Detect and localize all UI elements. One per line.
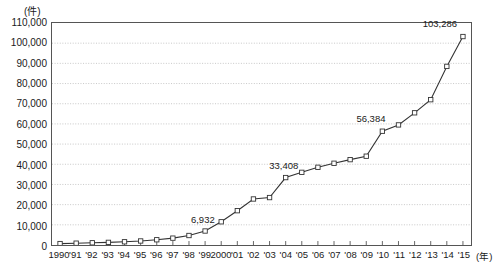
- x-tick-label: '07: [328, 249, 340, 260]
- x-tick-label: '94: [118, 249, 130, 260]
- x-tick-label: '14: [442, 249, 454, 260]
- data-series-line: [52, 23, 471, 245]
- data-point-marker: [74, 241, 78, 245]
- x-tick-label: '97: [166, 249, 178, 260]
- x-tick-label: '93: [101, 249, 113, 260]
- x-tick-label: '13: [425, 249, 437, 260]
- y-tick-label: 70,000: [16, 98, 47, 109]
- data-point-marker: [267, 195, 271, 199]
- y-tick-label: 110,000: [12, 17, 47, 28]
- x-axis-tick-labels: 1990'91'92'93'94'95'96'97'98'992000'01'0…: [51, 249, 472, 267]
- data-point-marker: [155, 238, 159, 242]
- data-point-marker: [348, 157, 352, 161]
- data-point-marker: [203, 229, 207, 233]
- x-tick-label: '95: [134, 249, 146, 260]
- x-tick-label: '04: [280, 249, 292, 260]
- y-tick-label: 90,000: [16, 57, 47, 68]
- data-point-marker: [283, 175, 287, 179]
- y-tick-label: 10,000: [16, 220, 47, 231]
- x-tick-label: '98: [182, 249, 194, 260]
- data-point-marker: [235, 209, 239, 213]
- data-point-marker: [122, 240, 126, 244]
- x-tick-label: '02: [247, 249, 259, 260]
- x-tick-label: '15: [458, 249, 470, 260]
- data-point-marker: [461, 34, 465, 38]
- x-tick-label: '91: [69, 249, 81, 260]
- x-tick-label: '10: [377, 249, 389, 260]
- x-tick-label: 1990: [49, 249, 70, 260]
- x-tick-label: '01: [231, 249, 243, 260]
- x-tick-label: '06: [312, 249, 324, 260]
- y-tick-label: 20,000: [16, 200, 47, 211]
- data-point-marker: [332, 161, 336, 165]
- x-tick-label: '08: [344, 249, 356, 260]
- data-point-marker: [251, 197, 255, 201]
- data-point-marker: [106, 240, 110, 244]
- data-point-label: 6,932: [191, 214, 215, 225]
- x-tick-label: '99: [199, 249, 211, 260]
- chart-container: (件) 110,000100,00090,00080,00070,00060,0…: [0, 0, 502, 278]
- data-point-marker: [316, 165, 320, 169]
- x-tick-label: '03: [263, 249, 275, 260]
- y-tick-label: 40,000: [16, 159, 47, 170]
- plot-area: [51, 22, 472, 246]
- y-tick-label: 60,000: [16, 118, 47, 129]
- data-point-marker: [171, 236, 175, 240]
- y-tick-label: 100,000: [11, 37, 47, 48]
- data-point-marker: [187, 233, 191, 237]
- x-tick-label: '96: [150, 249, 162, 260]
- y-tick-label: 50,000: [16, 139, 47, 150]
- x-tick-label: '12: [409, 249, 421, 260]
- data-point-marker: [90, 241, 94, 245]
- x-tick-label: 2000: [210, 249, 231, 260]
- y-tick-label: 0: [41, 241, 47, 252]
- x-tick-label: '05: [296, 249, 308, 260]
- x-tick-label: '92: [85, 249, 97, 260]
- data-point-marker: [364, 154, 368, 158]
- data-point-marker: [412, 111, 416, 115]
- y-tick-label: 80,000: [16, 78, 47, 89]
- data-point-marker: [429, 98, 433, 102]
- data-point-marker: [396, 123, 400, 127]
- x-axis-unit-label: (年): [476, 249, 492, 263]
- x-tick-label: '09: [361, 249, 373, 260]
- data-point-label: 33,408: [269, 160, 298, 171]
- data-point-label: 103,286: [423, 18, 457, 29]
- data-point-marker: [300, 170, 304, 174]
- data-point-marker: [219, 220, 223, 224]
- x-tick-label: '11: [393, 249, 405, 260]
- data-point-marker: [138, 239, 142, 243]
- data-point-label: 56,384: [356, 113, 385, 124]
- data-point-marker: [445, 64, 449, 68]
- y-axis-tick-labels: 110,000100,00090,00080,00070,00060,00050…: [0, 22, 47, 246]
- y-tick-label: 30,000: [16, 179, 47, 190]
- data-point-marker: [380, 129, 384, 133]
- data-point-marker: [58, 241, 62, 245]
